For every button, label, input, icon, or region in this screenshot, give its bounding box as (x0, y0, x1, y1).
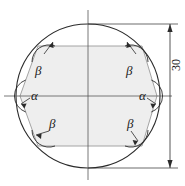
dimension-arrow-top (167, 24, 172, 32)
label-beta-bottom-left: β (49, 117, 55, 130)
dimension-arrow-bottom (167, 160, 172, 168)
label-alpha-left: α (31, 89, 38, 102)
figure-container: β β α α β β 30 (0, 0, 185, 186)
dimension-value-30: 30 (170, 59, 182, 71)
label-beta-top-right: β (126, 64, 132, 77)
label-alpha-right: α (139, 89, 146, 102)
geometry-drawing (0, 0, 185, 186)
label-beta-top-left: β (35, 64, 41, 77)
label-beta-bottom-right: β (127, 117, 133, 130)
